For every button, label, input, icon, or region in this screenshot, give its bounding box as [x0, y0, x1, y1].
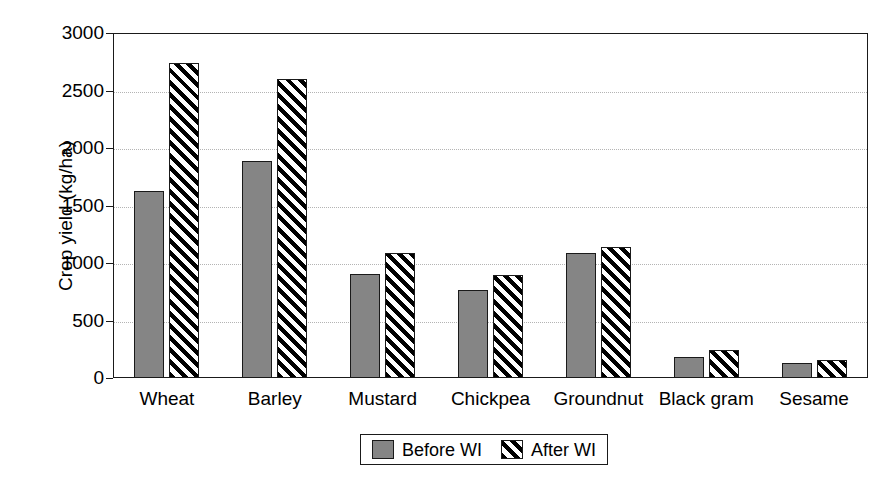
bar-before-wi: [566, 253, 596, 378]
y-axis-tick-label: 0: [0, 368, 104, 387]
bar-before-wi: [350, 274, 380, 378]
bar-before-wi: [782, 363, 812, 378]
x-axis-category-labels: WheatBarleyMustardChickpeaGroundnutBlack…: [113, 388, 868, 418]
x-axis-category-label: Groundnut: [553, 388, 643, 410]
y-axis-tickmark: [106, 33, 113, 34]
bar-chart: Crop yield (kg/ha) 300025002000150010005…: [0, 0, 892, 499]
y-axis-tickmark: [106, 148, 113, 149]
y-axis-tick-label: 1500: [0, 196, 104, 215]
x-axis-category-label: Barley: [248, 388, 302, 410]
y-axis-tickmark: [106, 378, 113, 379]
bar-before-wi: [242, 161, 272, 378]
bar-after-wi: [601, 247, 631, 378]
bar-after-wi: [493, 275, 523, 378]
legend-swatch-icon: [372, 440, 394, 459]
bar-after-wi: [709, 350, 739, 378]
bar-after-wi: [385, 253, 415, 378]
x-axis-category-label: Wheat: [139, 388, 194, 410]
y-axis-tickmark: [106, 206, 113, 207]
legend-label: After WI: [531, 441, 596, 459]
x-axis-category-label: Sesame: [779, 388, 849, 410]
y-axis-tick-label: 1000: [0, 253, 104, 272]
y-axis-tick-label: 2500: [0, 81, 104, 100]
x-axis-category-label: Black gram: [659, 388, 754, 410]
bar-before-wi: [458, 290, 488, 378]
y-axis-tick-label: 2000: [0, 138, 104, 157]
bar-after-wi: [169, 63, 199, 378]
y-axis-tickmark: [106, 321, 113, 322]
bar-after-wi: [277, 79, 307, 378]
y-axis-tickmark: [106, 91, 113, 92]
legend-label: Before WI: [402, 441, 482, 459]
bar-before-wi: [134, 191, 164, 378]
chart-legend: Before WIAfter WI: [360, 434, 608, 465]
x-axis-category-label: Chickpea: [451, 388, 530, 410]
y-axis-tick-label: 500: [0, 311, 104, 330]
legend-swatch-icon: [501, 440, 523, 459]
y-axis-tick-labels: 300025002000150010005000: [0, 0, 104, 499]
bar-after-wi: [817, 360, 847, 378]
legend-entry-after-wi: After WI: [501, 440, 596, 459]
legend-entry-before-wi: Before WI: [372, 440, 482, 459]
bar-before-wi: [674, 357, 704, 378]
y-axis-tickmark: [106, 263, 113, 264]
x-axis-category-label: Mustard: [348, 388, 417, 410]
y-axis-tick-label: 3000: [0, 23, 104, 42]
bars-layer: [113, 33, 868, 378]
